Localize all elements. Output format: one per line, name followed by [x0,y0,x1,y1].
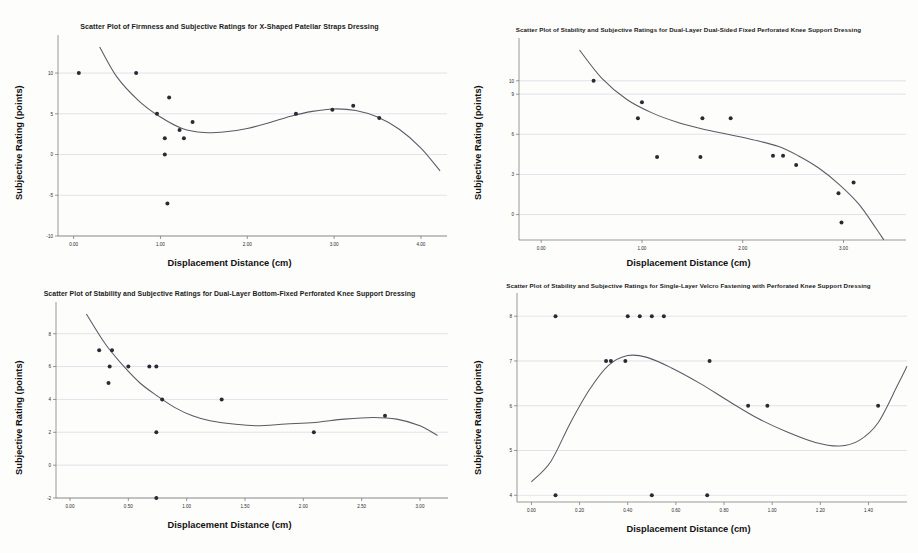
y-tick-label: 0 [50,152,53,157]
scatter-plot-top-left: 1050-5-100.001.002.003.004.00 [0,0,459,277]
x-tick-label: 0.80 [720,508,729,513]
data-point [330,108,334,112]
x-tick-label: 0.40 [623,508,632,513]
x-tick-label: 2.00 [243,242,252,247]
y-tick-label: -10 [46,234,53,239]
x-tick-label: 1.50 [241,504,250,509]
x-tick-label: 0.20 [575,508,584,513]
data-point [220,397,224,401]
y-tick-label: 6 [511,132,514,137]
data-point [705,493,709,497]
y-tick-label: 8 [48,332,51,337]
y-tick-label: 10 [48,71,54,76]
x-axis-title: Displacement Distance (cm) [459,258,918,268]
chart-panel-bottom-left: Scatter Plot of Stability and Subjective… [0,277,459,553]
data-point [108,365,112,369]
y-tick-label: 0 [511,212,514,217]
data-point [134,71,138,75]
data-point [383,414,387,418]
y-tick-label: -2 [47,496,52,501]
scatter-plot-top-right: 1096300.001.002.003.00 [459,0,918,277]
x-tick-label: 0.60 [671,508,680,513]
data-point [163,153,167,157]
chart-panel-bottom-right: Scatter Plot of Stability and Subjective… [459,277,918,553]
data-point [178,128,182,132]
x-tick-label: 2.00 [299,504,308,509]
data-point [154,365,158,369]
x-tick-label: 1.00 [182,504,191,509]
data-point [650,314,654,318]
data-point [160,397,164,401]
data-point [110,348,114,352]
x-tick-label: 3.00 [416,504,425,509]
y-tick-label: 8 [509,314,512,319]
data-point [182,136,186,140]
x-tick-label: 1.00 [637,246,646,251]
y-tick-label: 6 [48,364,51,369]
data-point [107,381,111,385]
data-point [623,359,627,363]
y-tick-label: 6 [509,404,512,409]
y-tick-label: 2 [48,430,51,435]
data-point [592,79,596,83]
x-axis-title: Displacement Distance (cm) [0,258,459,268]
x-tick-label: 3.00 [839,246,848,251]
data-point [650,493,654,497]
y-tick-label: 9 [511,92,514,97]
data-point [351,104,355,108]
x-tick-label: 1.00 [768,508,777,513]
x-tick-label: 0.00 [66,504,75,509]
x-tick-label: 1.00 [156,242,165,247]
data-point [604,359,608,363]
data-point [609,359,613,363]
data-point [97,348,101,352]
data-point [554,493,558,497]
data-point [729,116,733,120]
x-tick-label: 4.00 [416,242,425,247]
scatter-plot-bottom-right: 876540.000.200.400.600.801.001.201.40 [459,277,918,553]
y-tick-label: 5 [509,448,512,453]
chart-panel-top-right: Scatter Plot of Stability and Subjective… [459,0,918,277]
data-point [840,221,844,225]
data-point [154,430,158,434]
y-tick-label: 5 [50,112,53,117]
scatter-plot-bottom-left: 86420-20.000.501.001.502.002.503.00 [0,277,459,553]
data-point [746,404,750,408]
y-axis-title: Subjective Rating (points) [14,360,24,475]
y-axis-title: Subjective Rating (points) [473,85,483,200]
y-tick-label: 0 [48,463,51,468]
data-point [700,116,704,120]
data-point [377,116,381,120]
figure-grid: Scatter Plot of Firmness and Subjective … [0,0,918,553]
data-point [638,314,642,318]
x-tick-label: 3.00 [330,242,339,247]
y-tick-label: -5 [49,193,54,198]
y-tick-label: 7 [509,359,512,364]
x-axis-title: Displacement Distance (cm) [0,520,459,530]
x-tick-label: 0.00 [69,242,78,247]
x-tick-label: 0.50 [124,504,133,509]
x-tick-label: 1.40 [864,508,873,513]
y-axis-title: Subjective Rating (points) [473,360,483,475]
y-tick-label: 4 [48,397,51,402]
x-tick-label: 0.00 [527,508,536,513]
data-point [77,71,81,75]
data-point [312,430,316,434]
data-point [191,120,195,124]
data-point [781,154,785,158]
regression-fit-curve [531,355,907,482]
data-point [655,155,659,159]
y-tick-label: 3 [511,172,514,177]
data-point [154,496,158,500]
data-point [126,365,130,369]
data-point [836,191,840,195]
x-axis-title: Displacement Distance (cm) [459,524,918,534]
data-point [708,359,712,363]
data-point [636,116,640,120]
y-tick-label: 10 [509,79,515,84]
data-point [640,100,644,104]
data-point [147,365,151,369]
data-point [294,112,298,116]
chart-panel-top-left: Scatter Plot of Firmness and Subjective … [0,0,459,277]
data-point [626,314,630,318]
